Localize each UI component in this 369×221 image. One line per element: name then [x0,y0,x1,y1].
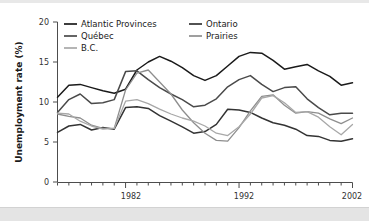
legend-label: Ontario [206,19,238,29]
legend-label: Atlantic Provinces [81,19,157,29]
series-line-qu-bec [58,71,353,115]
legend-label: Québec [81,31,114,41]
y-axis-title: Unemployment rate (%) [14,41,24,162]
chart-figure: 20 15 10 5 0 Unemployment rate (%) 1982 … [0,0,369,221]
y-tick-label-10: 10 [39,98,49,107]
series-line-atlantic-provinces [58,52,353,97]
legend-item-prairies[interactable]: Prairies [189,31,238,41]
x-tick-label-2002: 2002 [342,192,362,201]
legend-label: Prairies [206,31,238,41]
legend-item-ontario[interactable]: Ontario [189,19,238,29]
legend-label: B.C. [81,43,98,53]
x-tick-label-1982: 1982 [121,192,141,201]
series-layer [58,52,353,141]
x-tick-label-1992: 1992 [234,192,254,201]
legend-item-qu-bec[interactable]: Québec [64,31,114,41]
series-line-b-c [58,96,353,136]
y-axis: 20 15 10 5 0 Unemployment rate (%) [14,18,58,187]
x-minor-ticks [58,183,353,189]
legend-item-b-c[interactable]: B.C. [64,43,98,53]
footer-band [0,208,369,221]
y-tick-label-5: 5 [44,138,49,147]
x-axis: 1982 1992 2002 [58,183,363,202]
y-tick-label-0: 0 [44,178,49,187]
y-tick-label-15: 15 [39,58,49,67]
chart-legend: Atlantic ProvincesOntarioQuébecPrairiesB… [64,19,238,53]
legend-item-atlantic-provinces[interactable]: Atlantic Provinces [64,19,157,29]
y-tick-label-20: 20 [39,18,49,27]
line-chart: 20 15 10 5 0 Unemployment rate (%) 1982 … [0,0,369,221]
